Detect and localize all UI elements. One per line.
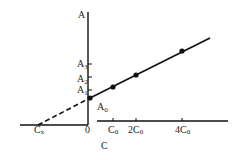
origin-label: 0 xyxy=(85,124,90,135)
data-point-2c0 xyxy=(133,72,138,77)
x-axis-label: C xyxy=(101,140,108,151)
data-point-4c0 xyxy=(179,48,184,53)
calibration-line xyxy=(90,38,210,98)
x-intercept-label-cx: Cx xyxy=(34,124,45,136)
y-tick-label-a3: A3 xyxy=(77,58,88,71)
data-point-c0 xyxy=(110,84,115,89)
x-tick-label-4c0: 4C0 xyxy=(175,124,191,136)
y-axis-label: A xyxy=(78,9,86,20)
diagram-canvas: A C 0 A3 A2 A1 A0 C0 2C0 4C0 Cx xyxy=(0,0,243,160)
intercept-label-a0: A0 xyxy=(97,101,108,114)
x-tick-label-2c0: 2C0 xyxy=(128,124,144,136)
x-tick-label-c0: C0 xyxy=(108,124,119,136)
extrapolation-line xyxy=(38,98,90,125)
data-point-a0 xyxy=(87,95,92,100)
